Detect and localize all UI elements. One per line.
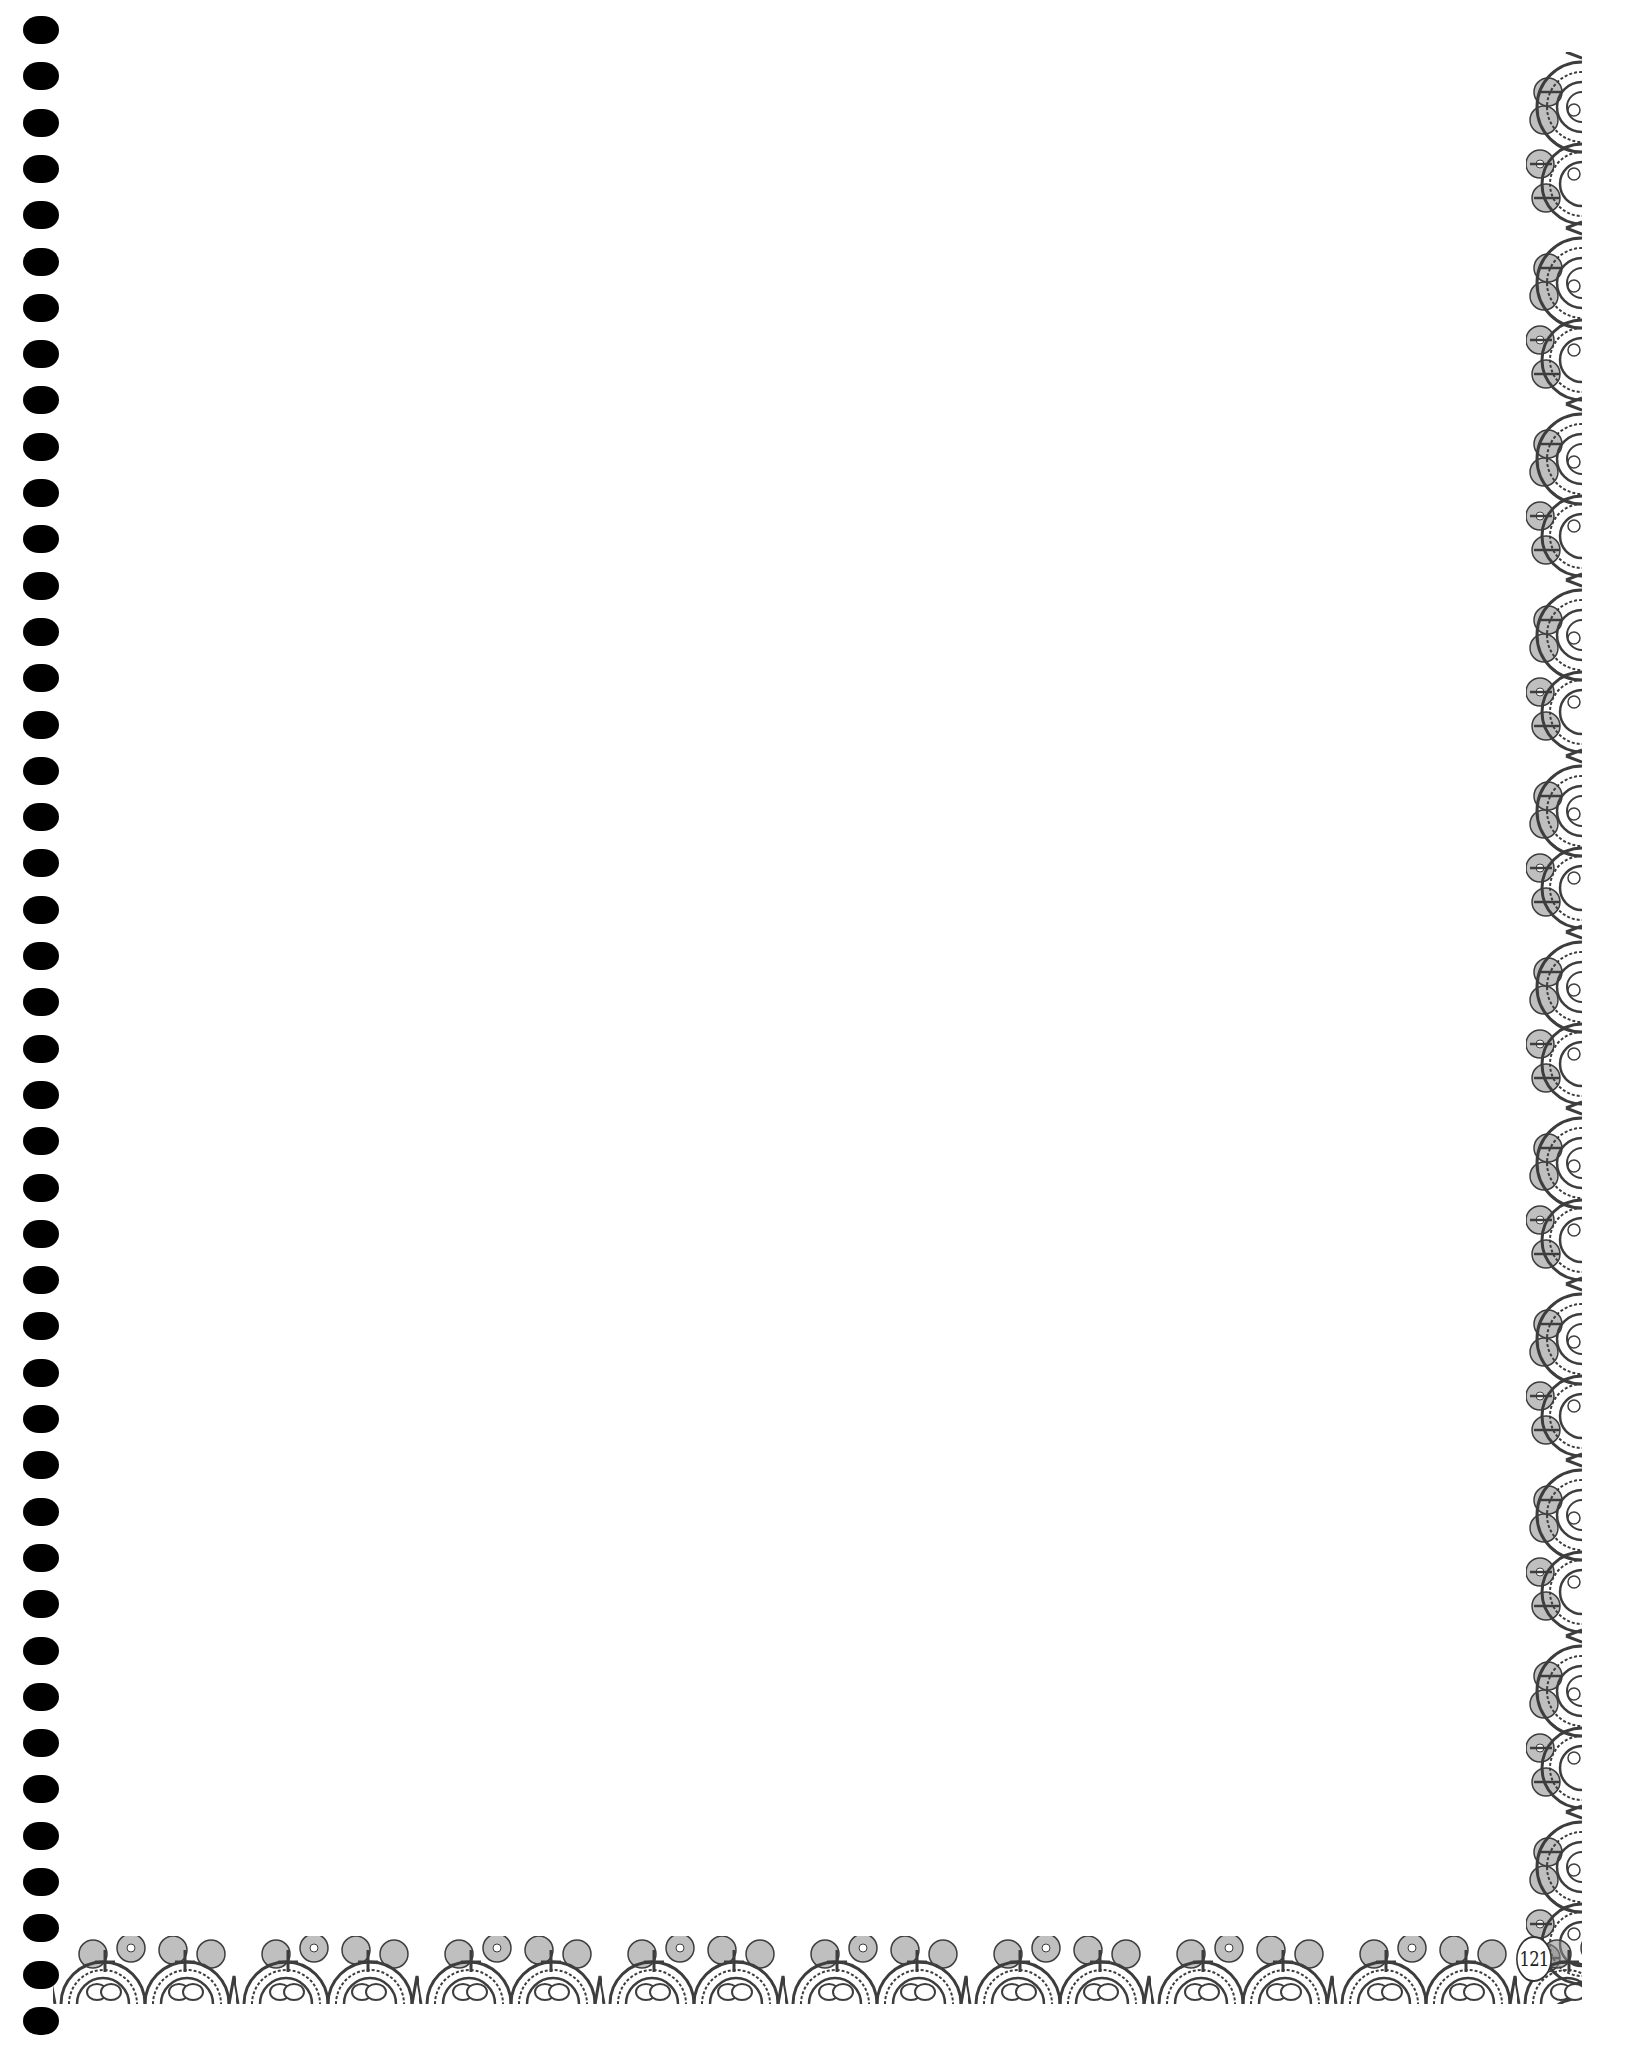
page-number: 121: [1520, 1947, 1549, 1971]
binding-hole-icon: [23, 1451, 59, 1479]
binding-hole-icon: [23, 1729, 59, 1757]
binding-hole-icon: [23, 1822, 59, 1850]
binding-hole-icon: [23, 1035, 59, 1063]
binding-hole-icon: [23, 664, 59, 692]
binding-hole-icon: [23, 757, 59, 785]
binding-hole-icon: [23, 1544, 59, 1572]
binding-hole-icon: [23, 16, 59, 44]
binding-hole-icon: [23, 248, 59, 276]
binding-hole-icon: [23, 803, 59, 831]
binding-hole-icon: [23, 942, 59, 970]
binding-hole-icon: [23, 294, 59, 322]
binding-hole-icon: [23, 711, 59, 739]
binding-hole-icon: [23, 1312, 59, 1340]
blank-page-area: [70, 40, 1510, 1930]
binding-hole-icon: [23, 479, 59, 507]
binding-hole-icon: [23, 155, 59, 183]
binding-hole-icon: [23, 2007, 59, 2035]
binding-hole-icon: [23, 1127, 59, 1155]
binding-hole-icon: [23, 201, 59, 229]
binding-hole-icon: [23, 62, 59, 90]
binding-hole-icon: [23, 1220, 59, 1248]
binding-hole-icon: [23, 1174, 59, 1202]
binding-hole-icon: [23, 572, 59, 600]
binding-hole-icon: [23, 525, 59, 553]
binding-hole-icon: [23, 1775, 59, 1803]
binding-hole-icon: [23, 849, 59, 877]
binding-hole-icon: [23, 618, 59, 646]
binding-hole-icon: [23, 1498, 59, 1526]
page-number-badge: 121: [1516, 1936, 1552, 1982]
binding-hole-icon: [23, 1683, 59, 1711]
lace-pattern-bottom-icon: [53, 1936, 1582, 2004]
binding-hole-icon: [23, 1637, 59, 1665]
lace-pattern-right-icon: [1526, 52, 1582, 2004]
binding-hole-icon: [23, 433, 59, 461]
binding-hole-icon: [23, 109, 59, 137]
binding-hole-icon: [23, 1359, 59, 1387]
binding-hole-icon: [23, 1081, 59, 1109]
binding-hole-icon: [23, 386, 59, 414]
binding-hole-icon: [23, 340, 59, 368]
lace-border-bottom: [53, 1936, 1582, 2004]
binding-hole-icon: [23, 988, 59, 1016]
binding-hole-icon: [23, 1405, 59, 1433]
binding-hole-icon: [23, 1266, 59, 1294]
lace-border-right: [1526, 52, 1582, 2004]
binding-hole-icon: [23, 896, 59, 924]
binding-hole-icon: [23, 1590, 59, 1618]
binding-hole-icon: [23, 1868, 59, 1896]
spiral-binding: [0, 0, 70, 2046]
